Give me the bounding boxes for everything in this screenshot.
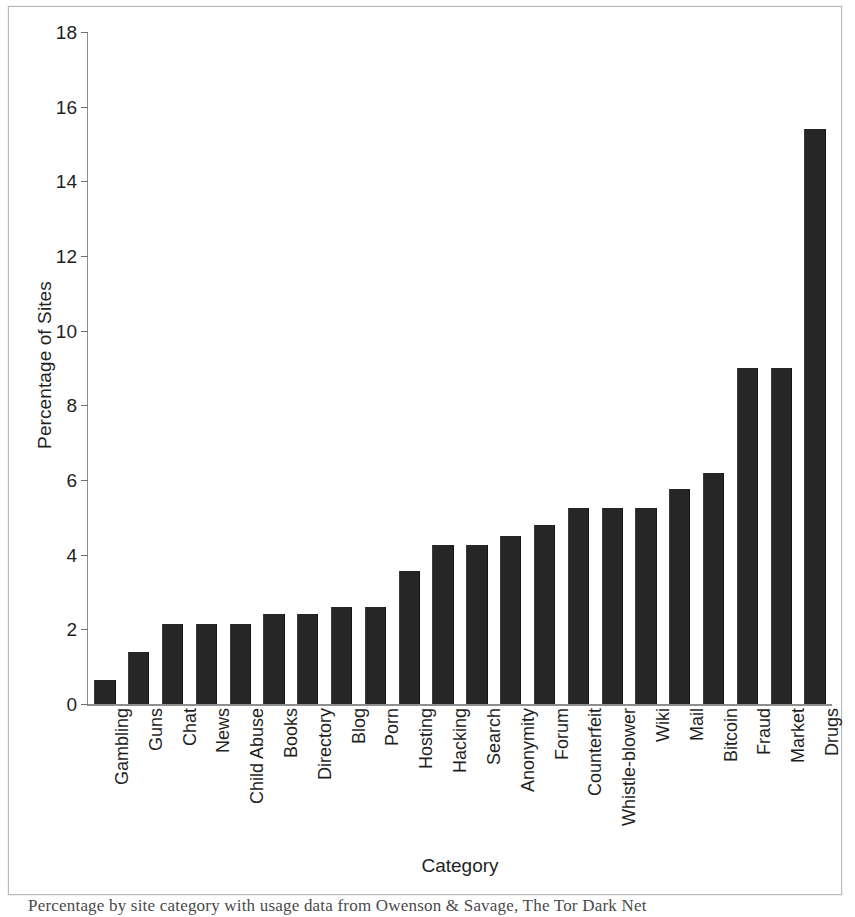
y-tick-label: 16 <box>37 98 77 117</box>
y-tick-mark <box>81 704 88 705</box>
x-tick-label-text: Hosting <box>417 708 435 769</box>
y-tick-mark <box>81 181 88 182</box>
x-tick-label-text: Anonymity <box>519 708 537 792</box>
bar <box>297 614 318 704</box>
bar <box>602 508 623 704</box>
plot-area <box>88 32 832 704</box>
bar <box>737 368 758 704</box>
y-tick-mark <box>81 480 88 481</box>
x-tick-label: Guns <box>146 708 164 751</box>
x-tick-label-text: Porn <box>383 708 401 746</box>
bar <box>399 571 420 704</box>
bar <box>669 489 690 704</box>
bar <box>432 545 453 704</box>
x-tick-label-text: Directory <box>316 708 334 780</box>
bar <box>804 129 825 704</box>
x-tick-label: Porn <box>382 708 400 746</box>
x-tick-label-text: Fraud <box>755 708 773 755</box>
x-tick-label: Counterfeit <box>585 708 603 796</box>
x-tick-label: Blog <box>349 708 367 744</box>
y-tick-mark <box>81 256 88 257</box>
bar <box>534 525 555 704</box>
x-tick-label: Wiki <box>653 708 671 742</box>
y-tick-label: 10 <box>37 322 77 341</box>
x-tick-label: Chat <box>180 708 198 746</box>
figure-caption-partial: Percentage by site category with usage d… <box>28 899 828 917</box>
x-axis-title: Category <box>88 855 832 877</box>
x-tick-label-text: Chat <box>181 708 199 746</box>
figure-caption-text: Percentage by site category with usage d… <box>28 899 828 916</box>
bar <box>635 508 656 704</box>
y-tick-mark <box>81 32 88 33</box>
x-tick-label-text: Wiki <box>654 708 672 742</box>
y-tick-label: 14 <box>37 172 77 191</box>
bar <box>703 473 724 704</box>
x-tick-label: Bitcoin <box>721 708 739 762</box>
x-tick-label: Directory <box>315 708 333 780</box>
bar <box>263 614 284 704</box>
y-tick-mark <box>81 405 88 406</box>
x-tick-label-text: Blog <box>350 708 368 744</box>
y-tick-label: 2 <box>37 620 77 639</box>
x-tick-label: Books <box>281 708 299 758</box>
x-tick-label-text: Guns <box>147 708 165 751</box>
bar <box>568 508 589 704</box>
y-tick-label: 6 <box>37 471 77 490</box>
x-tick-label-text: Hacking <box>451 708 469 773</box>
y-tick-mark <box>81 629 88 630</box>
x-tick-label: News <box>213 708 231 753</box>
bar <box>365 607 386 704</box>
bar <box>128 652 149 704</box>
x-tick-label-text: Whistle-blower <box>620 708 638 826</box>
bar <box>500 536 521 704</box>
y-tick-label: 12 <box>37 247 77 266</box>
y-tick-mark <box>81 555 88 556</box>
x-tick-label: Anonymity <box>518 708 536 792</box>
x-tick-label-text: Search <box>485 708 503 765</box>
bar <box>331 607 352 704</box>
y-axis-title: Percentage of Sites <box>34 25 56 705</box>
x-tick-label-text: Market <box>789 708 807 763</box>
y-tick-mark <box>81 107 88 108</box>
x-tick-label: Search <box>484 708 502 765</box>
x-tick-label: Hacking <box>450 708 468 773</box>
x-tick-label-text: Books <box>282 708 300 758</box>
y-tick-label: 0 <box>37 695 77 714</box>
bar <box>466 545 487 704</box>
x-tick-label-text: Counterfeit <box>586 708 604 796</box>
y-tick-mark <box>81 331 88 332</box>
x-axis-ticks: GamblingGunsChatNewsChild AbuseBooksDire… <box>88 708 832 848</box>
x-tick-label: Fraud <box>754 708 772 755</box>
x-tick-label-text: Gambling <box>113 708 131 785</box>
bar-chart: Percentage of Sites 024681012141618 Gamb… <box>9 7 843 896</box>
x-tick-label: Mail <box>687 708 705 741</box>
x-tick-label-text: Bitcoin <box>722 708 740 762</box>
x-tick-label: Market <box>788 708 806 763</box>
bar <box>94 680 115 704</box>
bar <box>771 368 792 704</box>
bar <box>162 624 183 704</box>
figure-frame: Percentage of Sites 024681012141618 Gamb… <box>8 6 842 895</box>
x-tick-label-text: Forum <box>553 708 571 760</box>
x-tick-label: Drugs <box>822 708 840 756</box>
x-tick-label-text: Mail <box>688 708 706 741</box>
y-tick-label: 18 <box>37 23 77 42</box>
bar <box>230 624 251 704</box>
y-tick-label: 8 <box>37 396 77 415</box>
bar <box>196 624 217 704</box>
x-tick-label: Hosting <box>416 708 434 769</box>
x-axis-line <box>87 704 832 706</box>
x-tick-label: Gambling <box>112 708 130 785</box>
x-tick-label-text: News <box>214 708 232 753</box>
x-tick-label-text: Child Abuse <box>248 708 266 804</box>
x-tick-label: Whistle-blower <box>619 708 637 826</box>
x-tick-label: Forum <box>552 708 570 760</box>
x-tick-label: Child Abuse <box>247 708 265 804</box>
y-tick-label: 4 <box>37 546 77 565</box>
x-tick-label-text: Drugs <box>823 708 841 756</box>
